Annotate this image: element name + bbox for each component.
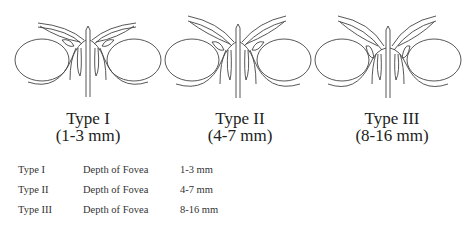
row-value: 8-16 mm [180,204,218,215]
row-type: Type I [18,164,45,175]
row-label: Depth of Fovea [83,204,148,215]
row-type: Type II [18,184,48,195]
caption-depth-range: (4-7 mm) [160,127,320,144]
caption-type-2: Type II (4-7 mm) [160,110,320,144]
caption-type-1: Type I (1-3 mm) [8,110,168,144]
caption-type-label: Type II [160,110,320,127]
caption-type-3: Type III (8-16 mm) [312,110,466,144]
row-type: Type III [18,204,52,215]
row-label: Depth of Fovea [83,164,148,175]
row-value: 1-3 mm [180,164,213,175]
row-value: 4-7 mm [180,184,213,195]
fovea-cross-section-illustration [298,0,466,105]
caption-depth-range: (8-16 mm) [312,127,466,144]
caption-depth-range: (1-3 mm) [8,127,168,144]
caption-type-label: Type I [8,110,168,127]
fovea-diagram-type-3 [298,0,466,105]
row-label: Depth of Fovea [83,184,148,195]
caption-type-label: Type III [312,110,466,127]
